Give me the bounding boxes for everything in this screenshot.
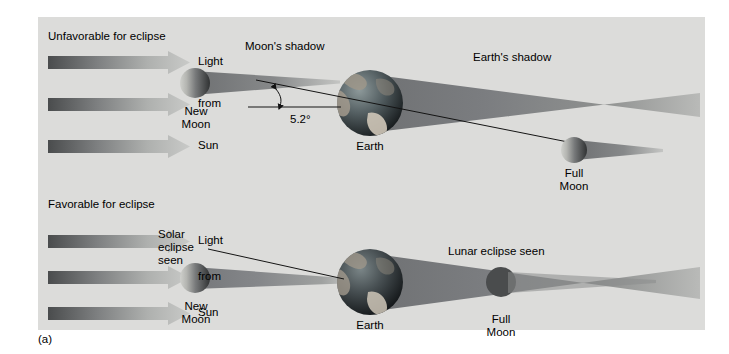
label-solar-eclipse-line1: Solar <box>158 228 185 242</box>
label-new-moon-bottom-line1: New <box>171 300 221 314</box>
label-full-moon-bottom-line2: Moon <box>476 326 526 340</box>
heading-unfavorable: Unfavorable for eclipse <box>48 30 166 44</box>
earths-shadow-cone-top <box>368 74 700 133</box>
sunlight-arrow-light-top <box>48 51 190 74</box>
label-earth-top: Earth <box>345 140 395 154</box>
label-solar-eclipse-line2: eclipse <box>158 241 194 255</box>
label-earth-bottom: Earth <box>345 319 395 333</box>
full-moon-shadow-cone-bottom <box>508 272 656 293</box>
label-full-moon-bottom-line1: Full <box>476 313 526 327</box>
figure-caption: (a) <box>38 333 52 345</box>
sunlight-arrow-sun-bottom <box>48 302 190 325</box>
label-lunar-eclipse-seen: Lunar eclipse seen <box>448 245 545 259</box>
label-from-bottom: from <box>198 270 221 284</box>
diagram-panel: Unfavorable for eclipse Light from Sun N… <box>38 17 705 330</box>
moons-shadow-cone-top <box>193 71 340 95</box>
label-new-moon-bottom-line2: Moon <box>171 313 221 327</box>
new-moon-top <box>180 68 210 98</box>
eclipse-geometry-figure: Unfavorable for eclipse Light from Sun N… <box>0 0 729 354</box>
full-moon-shadow-cone-top <box>576 140 663 160</box>
diagram-graphics <box>38 17 705 330</box>
label-earths-shadow: Earth's shadow <box>473 51 551 65</box>
label-orbit-inclination-angle: 5.2° <box>290 113 311 127</box>
heading-favorable: Favorable for eclipse <box>48 198 155 212</box>
sunlight-arrow-sun-top <box>48 135 190 158</box>
earth-bottom <box>335 249 403 315</box>
label-moons-shadow: Moon's shadow <box>245 40 325 54</box>
label-new-moon-top-line1: New <box>171 105 221 119</box>
label-solar-eclipse-line3: seen <box>158 254 183 268</box>
label-light-bottom: Light <box>198 234 223 248</box>
earth-top <box>335 70 403 136</box>
label-new-moon-top-line2: Moon <box>171 118 221 132</box>
label-full-moon-top-line1: Full <box>549 167 599 181</box>
label-light-top: Light <box>198 55 223 69</box>
sunlight-arrow-from-bottom <box>48 266 190 289</box>
label-full-moon-top-line2: Moon <box>549 180 599 194</box>
angle-annotation-5-2-degrees <box>248 89 341 109</box>
sunlight-arrow-from-top <box>48 93 190 116</box>
sunlight-arrows-top <box>48 51 190 158</box>
full-moon-top <box>561 137 587 163</box>
label-sun-top: Sun <box>198 139 218 153</box>
